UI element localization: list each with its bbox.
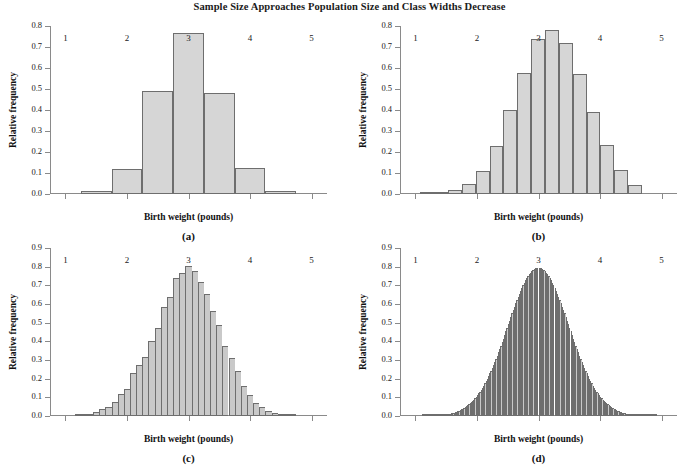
histogram-bar [448, 190, 462, 194]
y-tick: 0.8 [395, 26, 400, 27]
y-tick-label: 0.0 [31, 410, 42, 420]
y-tick: 0.4 [395, 341, 400, 342]
x-tick [539, 194, 540, 199]
histogram-bar [614, 170, 628, 194]
y-tick: 0.0 [395, 194, 400, 195]
y-tick-label: 0.0 [381, 188, 392, 198]
y-tick: 0.3 [45, 360, 50, 361]
x-tick [65, 416, 66, 421]
x-tick [477, 194, 478, 199]
x-axis-label-b: Birth weight (pounds) [400, 212, 677, 222]
y-tick-label: 0.9 [31, 242, 42, 252]
x-tick [127, 194, 128, 199]
x-tick-label: 3 [186, 33, 191, 43]
y-tick: 0.5 [45, 323, 50, 324]
x-tick-label: 5 [659, 33, 664, 43]
x-axis-label-a: Birth weight (pounds) [50, 212, 327, 222]
y-tick: 0.2 [395, 379, 400, 380]
y-tick-label: 0.8 [31, 20, 42, 30]
figure-title: Sample Size Approaches Population Size a… [0, 1, 699, 12]
y-tick: 0.1 [45, 397, 50, 398]
y-tick-label: 0.6 [381, 62, 392, 72]
bars-b [400, 26, 677, 194]
x-tick [600, 194, 601, 199]
y-tick-label: 0.7 [381, 41, 392, 51]
y-tick-label: 0.5 [31, 317, 42, 327]
y-tick: 0.1 [395, 397, 400, 398]
y-tick: 0.5 [395, 323, 400, 324]
y-tick: 0.0 [395, 416, 400, 417]
bars-c [50, 248, 327, 416]
x-tick-label: 2 [125, 255, 130, 265]
x-tick-label: 3 [186, 255, 191, 265]
y-tick: 0.8 [45, 26, 50, 27]
x-tick-label: 3 [536, 255, 541, 265]
y-tick: 0.8 [45, 267, 50, 268]
histogram-bar [600, 145, 614, 194]
histogram-bar [112, 169, 143, 194]
x-tick-label: 2 [475, 255, 480, 265]
x-tick [189, 194, 190, 199]
plot-area-d: 0.00.10.20.30.40.50.60.70.80.9 12345 [400, 248, 677, 416]
histogram-bar [490, 146, 504, 194]
x-tick-label: 4 [248, 255, 253, 265]
density-bar [655, 414, 656, 416]
x-tick-label: 1 [413, 255, 418, 265]
histogram-bar [517, 73, 531, 194]
x-tick-label: 1 [413, 33, 418, 43]
y-tick: 0.7 [395, 47, 400, 48]
histogram-bar [420, 192, 434, 194]
y-tick: 0.3 [395, 131, 400, 132]
x-tick [250, 194, 251, 199]
histogram-bar [81, 191, 112, 194]
x-tick [127, 416, 128, 421]
y-tick: 0.7 [395, 285, 400, 286]
panel-a: Relative frequency 0.00.10.20.30.40.50.6… [0, 16, 349, 238]
x-tick [65, 194, 66, 199]
x-tick [539, 416, 540, 421]
y-tick-label: 0.5 [381, 83, 392, 93]
histogram-bar [628, 185, 642, 194]
panel-d: Relative frequency 0.00.10.20.30.40.50.6… [350, 238, 699, 474]
y-tick-label: 0.8 [31, 261, 42, 271]
x-tick [415, 194, 416, 199]
y-axis-label-d: Relative frequency [356, 248, 370, 416]
histogram-bar [476, 171, 490, 194]
y-axis-label-c: Relative frequency [6, 248, 20, 416]
x-tick [189, 416, 190, 421]
y-tick: 0.6 [45, 304, 50, 305]
panel-c: Relative frequency 0.00.10.20.30.40.50.6… [0, 238, 349, 474]
x-tick-label: 3 [536, 33, 541, 43]
x-axis-label-c: Birth weight (pounds) [50, 434, 327, 444]
plot-area-b: 0.00.10.20.30.40.50.60.70.8 12345 [400, 26, 677, 194]
y-tick-label: 0.1 [31, 167, 42, 177]
x-tick-label: 4 [598, 255, 603, 265]
x-tick-label: 4 [598, 33, 603, 43]
x-tick-label: 4 [248, 33, 253, 43]
histogram-bar [503, 110, 517, 194]
y-tick: 0.9 [45, 248, 50, 249]
histogram-bar [531, 39, 545, 194]
panel-tag-d: (d) [400, 452, 677, 464]
y-tick-label: 0.8 [381, 20, 392, 30]
figure-container: Sample Size Approaches Population Size a… [0, 0, 699, 474]
x-tick [662, 416, 663, 421]
y-tick-label: 0.3 [31, 354, 42, 364]
x-tick-label: 5 [309, 255, 314, 265]
x-tick-label: 5 [659, 255, 664, 265]
y-axis-label-a: Relative frequency [6, 26, 20, 194]
y-tick-label: 0.8 [381, 261, 392, 271]
histogram-bar [573, 74, 587, 194]
x-axis-label-d: Birth weight (pounds) [400, 434, 677, 444]
x-tick [600, 416, 601, 421]
y-tick-label: 0.4 [381, 335, 392, 345]
y-tick: 0.8 [395, 267, 400, 268]
panel-tag-c: (c) [50, 452, 327, 464]
panel-b: Relative frequency 0.00.10.20.30.40.50.6… [350, 16, 699, 238]
y-tick-label: 0.5 [381, 317, 392, 327]
y-tick-label: 0.0 [31, 188, 42, 198]
x-tick-label: 1 [63, 255, 68, 265]
histogram-bar [265, 191, 296, 194]
x-tick [312, 416, 313, 421]
y-tick: 0.5 [395, 89, 400, 90]
